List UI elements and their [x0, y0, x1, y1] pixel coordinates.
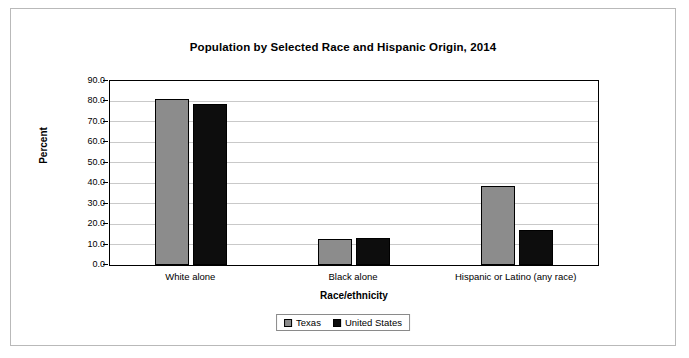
- bar: [155, 99, 189, 265]
- legend-item-united-states: United States: [333, 317, 402, 328]
- y-axis-tick-label: 80.0: [61, 95, 105, 105]
- y-axis-tick-labels: 0.010.020.030.040.050.060.070.080.090.0: [59, 80, 105, 266]
- y-axis-tick-mark: [103, 121, 108, 122]
- plot-area: [109, 80, 599, 266]
- y-axis-tick-label: 10.0: [61, 239, 105, 249]
- y-axis-tick-mark: [103, 141, 108, 142]
- y-axis-title: Percent: [38, 86, 49, 206]
- y-axis-tick-label: 70.0: [61, 116, 105, 126]
- y-axis-tick-mark: [103, 244, 108, 245]
- bar: [193, 104, 227, 266]
- y-axis-tick-label: 60.0: [61, 136, 105, 146]
- y-axis-tick-mark: [103, 80, 108, 81]
- bar: [481, 186, 515, 265]
- chart-card: Population by Selected Race and Hispanic…: [10, 8, 676, 346]
- legend-swatch-icon: [333, 319, 341, 327]
- y-axis-tick-label: 0.0: [61, 259, 105, 269]
- y-axis-tick-label: 30.0: [61, 198, 105, 208]
- x-axis-category-label: Hispanic or Latino (any race): [416, 271, 616, 282]
- y-axis-tick-mark: [103, 182, 108, 183]
- legend-label: United States: [345, 317, 402, 328]
- y-axis-tick-mark: [103, 100, 108, 101]
- y-axis-tick-label: 90.0: [61, 75, 105, 85]
- bar: [519, 230, 553, 265]
- y-axis-tick-mark: [103, 203, 108, 204]
- x-axis-title: Race/ethnicity: [109, 290, 599, 301]
- y-axis-tick-mark: [103, 162, 108, 163]
- legend-item-texas: Texas: [284, 317, 321, 328]
- y-axis-tick-label: 40.0: [61, 177, 105, 187]
- y-axis-tick-mark: [103, 223, 108, 224]
- legend-label: Texas: [296, 317, 321, 328]
- chart-legend: Texas United States: [276, 314, 410, 331]
- y-axis-tick-label: 50.0: [61, 157, 105, 167]
- bar: [356, 238, 390, 265]
- legend-swatch-icon: [284, 319, 292, 327]
- bar: [318, 239, 352, 265]
- chart-title: Population by Selected Race and Hispanic…: [11, 41, 675, 53]
- y-axis-tick-label: 20.0: [61, 218, 105, 228]
- y-axis-tick-mark: [103, 264, 108, 265]
